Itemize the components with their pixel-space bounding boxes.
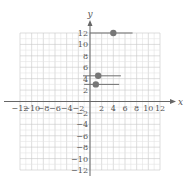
x-axis-label: x [178, 97, 183, 107]
y-axis-arrow-icon [88, 20, 93, 26]
x-tick-label: 8 [134, 104, 139, 113]
x-tick-label: 10 [143, 104, 153, 113]
y-tick-label: −10 [71, 155, 88, 164]
x-tick-label: 4 [111, 104, 116, 113]
x-tick-label: 2 [99, 104, 104, 113]
data-point [110, 30, 116, 36]
y-tick-label: 8 [83, 52, 88, 61]
y-axis-label: y [86, 9, 93, 19]
y-tick-label: −8 [76, 143, 88, 152]
y-tick-label: −12 [71, 166, 88, 175]
x-tick-label: −8 [37, 104, 49, 113]
y-tick-label: 6 [83, 63, 88, 72]
data-point [95, 73, 101, 79]
coordinate-plane-chart: −12−10−8−6−4−224681012−12−10−8−6−4−22468… [0, 0, 183, 181]
x-tick-label: −4 [61, 104, 73, 113]
y-tick-label: −2 [76, 109, 88, 118]
x-tick-label: −6 [49, 104, 61, 113]
x-tick-label: 12 [155, 104, 165, 113]
y-tick-label: 10 [78, 40, 88, 49]
y-tick-label: −4 [76, 120, 88, 129]
x-axis-arrow-icon [170, 99, 176, 104]
x-tick-label: 6 [122, 104, 127, 113]
y-tick-label: 2 [83, 86, 88, 95]
y-tick-label: 12 [78, 29, 88, 38]
y-tick-label: −6 [76, 132, 88, 141]
data-point [93, 81, 99, 87]
